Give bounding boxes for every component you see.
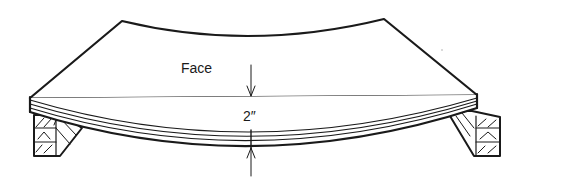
speck [441,49,442,50]
bent-panel-diagram: Face 2″ [0,0,581,184]
face-label: Face [181,60,212,76]
curved-panel [30,19,477,146]
thickness-label: 2″ [243,108,256,124]
right-support-block [447,111,500,156]
